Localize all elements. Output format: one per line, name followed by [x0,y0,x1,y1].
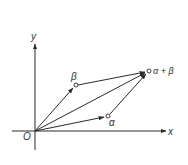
beta-label: β [70,71,77,82]
point-beta [74,83,78,87]
alpha-label: α [109,117,115,128]
origin-label: O [23,131,31,142]
side-alpha-to-sum [110,74,146,114]
vector-alpha-plus-beta [35,73,145,131]
point-alpha-plus-beta [147,69,151,73]
y-axis-label: y [30,31,37,42]
vector-diagram: y x O β α α + β [0,0,188,165]
alpha-plus-beta-label: α + β [153,66,174,76]
x-axis-label: x [167,126,174,137]
